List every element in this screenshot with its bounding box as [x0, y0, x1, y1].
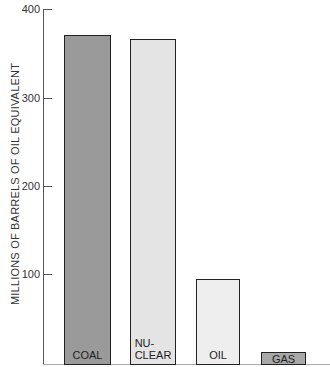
y-tick-label-300: 300 [12, 92, 40, 104]
y-tick-label-100: 100 [12, 268, 40, 280]
bar-label-gas: GAS [272, 353, 295, 365]
bar-label-line: NU- [135, 337, 172, 349]
y-tick-100 [43, 274, 52, 275]
y-tick-label-400: 400 [12, 3, 40, 15]
y-tick-200 [43, 186, 52, 187]
bar-label-nuclear: NU- CLEAR [135, 337, 172, 364]
bar-label-coal: COAL [73, 349, 103, 364]
bar-label-line: CLEAR [135, 349, 172, 361]
y-tick-label-200: 200 [12, 180, 40, 192]
bar-nuclear: NU- CLEAR [130, 39, 176, 365]
y-axis-top-tick [43, 9, 52, 10]
bar-label-line: COAL [73, 349, 103, 361]
bar-coal: COAL [64, 35, 111, 365]
y-tick-300 [43, 98, 52, 99]
bar-oil: OIL [196, 279, 240, 365]
bar-gas: GAS [261, 352, 306, 365]
bar-label-line: OIL [209, 349, 227, 361]
bar-label-line: GAS [272, 353, 295, 365]
bar-label-oil: OIL [209, 349, 227, 364]
